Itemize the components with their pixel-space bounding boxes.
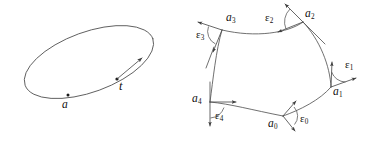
- label-vertex-a0-base: a: [268, 117, 274, 129]
- label-vertex-a2: a2: [305, 8, 314, 20]
- vertex-a0-group: [283, 101, 298, 131]
- label-vertex-a3: a3: [226, 12, 235, 24]
- edge-a3-a4: [210, 30, 222, 102]
- label-angle-e4-base: ε: [215, 109, 220, 121]
- label-vertex-a2-sub: 2: [311, 13, 315, 21]
- label-vertex-a0: a0: [268, 118, 277, 130]
- a0-angle-arc: [294, 107, 298, 125]
- label-vertex-a0-sub: 0: [274, 123, 278, 131]
- a0-incoming-tangent-arrow: [283, 116, 295, 131]
- edge-a1-a2: [303, 22, 331, 87]
- label-angle-e3-sub: 3: [201, 34, 205, 42]
- figure-canvas: [0, 0, 369, 141]
- a2-angle-arc: [285, 9, 290, 29]
- a2-extension-stroke: [303, 22, 325, 44]
- label-angle-e2: ε2: [265, 12, 273, 23]
- label-point-a: a: [62, 99, 68, 111]
- label-vertex-a1: a1: [333, 86, 342, 98]
- label-angle-e0: ε0: [300, 113, 308, 124]
- a1-incoming-tangent-arrow: [331, 62, 332, 87]
- label-angle-e2-sub: 2: [270, 17, 274, 25]
- label-angle-e1: ε1: [345, 59, 353, 70]
- label-angle-e3-base: ε: [196, 28, 201, 40]
- a1-angle-arc: [332, 72, 346, 82]
- label-vertex-a4: a4: [192, 93, 201, 105]
- label-vertex-a1-base: a: [333, 85, 339, 97]
- label-angle-e1-base: ε: [345, 58, 350, 70]
- point-a-marker: [67, 94, 70, 97]
- figure-root: a t a0 a1 a2 a3 a4 ε0 ε1 ε2 ε3 ε4: [0, 0, 369, 141]
- a2-outgoing-tangent-arrow: [278, 22, 303, 32]
- label-vertex-a3-sub: 3: [232, 17, 236, 25]
- label-vertex-a4-sub: 4: [198, 98, 202, 106]
- a2-incoming-tangent-arrow: [285, 4, 303, 22]
- label-angle-e2-base: ε: [265, 11, 270, 23]
- label-tangent-t: t: [119, 80, 122, 93]
- label-angle-e4: ε4: [215, 110, 223, 121]
- ellipse-path: [15, 11, 163, 114]
- label-angle-e4-sub: 4: [220, 115, 224, 123]
- a3-extension-stroke: [206, 47, 214, 68]
- vertex-a2-group: [278, 4, 325, 44]
- label-angle-e0-base: ε: [300, 112, 305, 124]
- label-vertex-a2-base: a: [305, 7, 311, 19]
- label-angle-e1-sub: 1: [350, 64, 354, 72]
- a3-angle-arc: [208, 27, 216, 45]
- left-closed-curve: [15, 11, 163, 114]
- label-vertex-a4-base: a: [192, 92, 198, 104]
- label-vertex-a3-base: a: [226, 11, 232, 23]
- label-angle-e3: ε3: [196, 29, 204, 40]
- edge-a0-a1: [283, 87, 331, 116]
- label-angle-e0-sub: 0: [305, 118, 309, 126]
- label-vertex-a1-sub: 1: [339, 91, 343, 99]
